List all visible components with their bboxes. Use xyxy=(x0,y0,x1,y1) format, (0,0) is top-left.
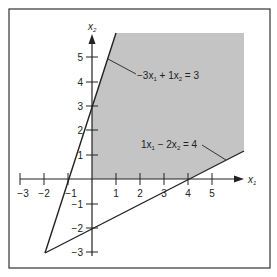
x-tick-label: 5 xyxy=(209,188,215,199)
x-tick-label: −1 xyxy=(65,188,77,199)
y-tick-label: 3 xyxy=(77,101,83,112)
y-tick-label: 2 xyxy=(77,125,83,136)
x-tick-label: −2 xyxy=(38,188,50,199)
y-tick-label: 5 xyxy=(77,52,83,63)
x-tick-label: 4 xyxy=(185,188,191,199)
y-tick-label: −3 xyxy=(72,247,84,258)
y-tick-label: 4 xyxy=(77,77,83,88)
x-tick-label: 1 xyxy=(113,188,119,199)
constraint-label-2: 1x1 − 2x2 = 4 xyxy=(141,139,198,151)
x-tick-labels: −3 −2 −1 1 2 3 4 5 xyxy=(17,188,215,199)
feasible-region-diagram: −3 −2 −1 1 2 3 4 5 5 4 3 2 1 −1 −2 −3 x2… xyxy=(0,0,277,277)
y-tick-label: −2 xyxy=(72,223,84,234)
y-tick-label: −1 xyxy=(72,199,84,210)
x-tick-label: 2 xyxy=(137,188,143,199)
x-tick-label: −3 xyxy=(17,188,29,199)
constraint-label-1: −3x1 + 1x2 = 3 xyxy=(137,70,199,82)
